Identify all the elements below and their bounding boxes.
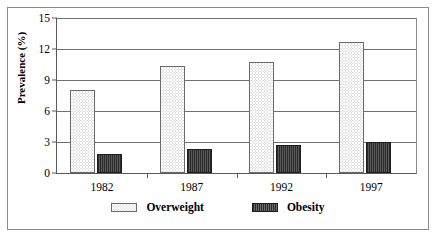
gridline — [57, 18, 416, 19]
legend-item-obesity[interactable]: Obesity — [252, 201, 325, 213]
x-tick-label-1997: 1997 — [360, 181, 383, 193]
bar-overweight-1987 — [160, 66, 185, 173]
bar-overweight-1982 — [70, 90, 95, 173]
y-tick-label: 0 — [44, 167, 50, 179]
y-tick-mark — [52, 80, 57, 81]
y-axis-title: Prevalence (%) — [15, 3, 27, 133]
y-tick-mark — [52, 111, 57, 112]
x-tick-mark — [237, 173, 238, 178]
bar-overweight-1992 — [249, 62, 274, 173]
legend-swatch-overweight-icon — [111, 203, 137, 212]
legend-swatch-obesity-icon — [252, 203, 278, 212]
plot-area: 03691215 1982198719921997 — [56, 18, 417, 174]
x-tick-label-1982: 1982 — [90, 181, 113, 193]
y-tick-label: 3 — [44, 136, 50, 148]
y-tick-label: 12 — [39, 43, 51, 55]
legend-label: Obesity — [287, 201, 325, 213]
chart-legend: OverweightObesity — [0, 201, 436, 213]
x-tick-mark — [147, 173, 148, 178]
x-tick-label-1992: 1992 — [270, 181, 293, 193]
y-tick-label: 6 — [44, 105, 50, 117]
y-tick-mark — [52, 173, 57, 174]
y-tick-label: 15 — [39, 12, 51, 24]
y-tick-label: 9 — [44, 74, 50, 86]
bar-obesity-1987 — [187, 149, 212, 173]
legend-item-overweight[interactable]: Overweight — [111, 201, 203, 213]
x-tick-mark — [326, 173, 327, 178]
bar-overweight-1997 — [339, 42, 364, 173]
y-tick-mark — [52, 142, 57, 143]
legend-label: Overweight — [146, 201, 203, 213]
y-tick-mark — [52, 18, 57, 19]
chart-figure: Prevalence (%) 03691215 1982198719921997… — [0, 0, 436, 237]
x-tick-label-1987: 1987 — [180, 181, 203, 193]
bar-obesity-1992 — [276, 145, 301, 173]
bar-obesity-1997 — [366, 142, 391, 173]
y-tick-mark — [52, 49, 57, 50]
bar-obesity-1982 — [97, 154, 122, 173]
